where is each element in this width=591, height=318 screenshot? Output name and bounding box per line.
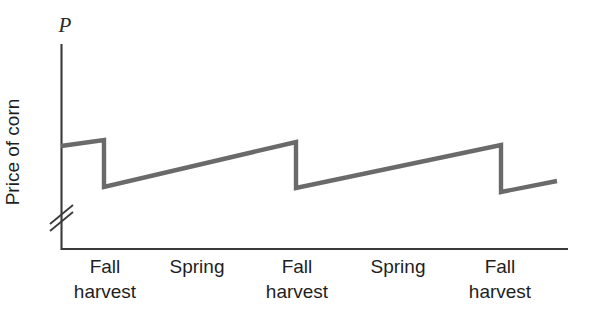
x-tick-line2: harvest <box>440 279 560 304</box>
price-of-corn-chart: P Price of corn Fall harvest Spring Fall… <box>0 0 591 318</box>
x-tick-line2: harvest <box>237 279 357 304</box>
x-tick-label-fall-harvest-3: Fall harvest <box>440 254 560 304</box>
x-tick-line2: harvest <box>45 279 165 304</box>
price-sawtooth-line <box>61 140 557 192</box>
x-tick-line1: Fall <box>440 254 560 279</box>
